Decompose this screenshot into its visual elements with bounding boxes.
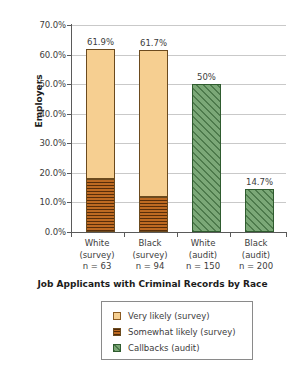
y-tick-label: 70.0% xyxy=(39,20,66,30)
bar-value-label: 14.7% xyxy=(246,177,273,187)
legend-item-very-likely: Very likely (survey) xyxy=(113,308,210,323)
x-category-black-audit: Black (audit) n = 200 xyxy=(219,238,293,273)
bar-white-survey: 61.9% xyxy=(86,49,115,232)
y-tick-label: 30.0% xyxy=(39,138,66,148)
plot-area: 61.9% 61.7% 50% 14.7% xyxy=(72,25,286,232)
bar-value-label: 61.9% xyxy=(87,37,114,47)
y-tick-label: 10.0% xyxy=(39,197,66,207)
bar-segment-somewhat-likely xyxy=(86,179,115,232)
x-tick-mark xyxy=(230,232,231,237)
legend-item-callbacks: Callbacks (audit) xyxy=(113,340,200,355)
bar-segment-callbacks xyxy=(245,189,274,232)
legend-swatch-icon xyxy=(113,312,121,320)
x-tick-mark xyxy=(286,232,287,237)
legend-label: Very likely (survey) xyxy=(128,311,210,321)
category-method: (audit) xyxy=(219,250,293,262)
legend-swatch-icon xyxy=(113,328,121,336)
y-axis-title: Employers xyxy=(34,61,44,141)
legend-label: Somewhat likely (survey) xyxy=(128,327,236,337)
legend-swatch-icon xyxy=(113,344,121,352)
bar-segment-very-likely xyxy=(139,50,168,197)
x-tick-mark xyxy=(177,232,178,237)
bar-value-label: 50% xyxy=(197,72,216,82)
bar-black-survey: 61.7% xyxy=(139,50,168,232)
x-axis-title: Job Applicants with Criminal Records by … xyxy=(0,279,305,289)
y-tick-label: 50.0% xyxy=(39,79,66,89)
y-tick-label: 20.0% xyxy=(39,168,66,178)
y-tick-label: 40.0% xyxy=(39,109,66,119)
x-tick-mark xyxy=(124,232,125,237)
bar-segment-somewhat-likely xyxy=(139,197,168,232)
y-tick-label: 0.0% xyxy=(45,227,66,237)
y-tick-label: 60.0% xyxy=(39,50,66,60)
category-sample-size: n = 200 xyxy=(219,261,293,273)
bar-value-label: 61.7% xyxy=(140,38,167,48)
category-race: Black xyxy=(219,238,293,250)
x-axis-line xyxy=(71,232,287,233)
x-tick-mark xyxy=(71,232,72,237)
bar-segment-very-likely xyxy=(86,49,115,179)
bar-black-audit: 14.7% xyxy=(245,189,274,232)
legend-label: Callbacks (audit) xyxy=(128,343,200,353)
gridline xyxy=(72,25,286,26)
bar-segment-callbacks xyxy=(192,84,221,232)
bar-white-audit: 50% xyxy=(192,84,221,232)
legend-item-somewhat-likely: Somewhat likely (survey) xyxy=(113,324,236,339)
legend: Very likely (survey) Somewhat likely (su… xyxy=(101,301,253,360)
bar-chart: Employers 70.0% 60.0% 50.0% 40.0% 30.0% … xyxy=(0,0,305,374)
